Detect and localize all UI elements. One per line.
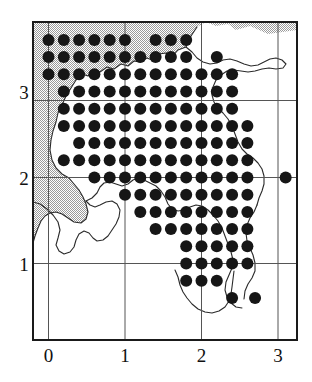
distribution-dot: [73, 51, 85, 63]
distribution-dot: [150, 189, 162, 201]
distribution-dot: [43, 68, 55, 80]
distribution-dot: [241, 137, 253, 149]
distribution-dot: [196, 154, 208, 166]
distribution-dot: [58, 103, 70, 115]
distribution-dot: [88, 86, 100, 98]
distribution-dot: [196, 137, 208, 149]
distribution-dot: [150, 137, 162, 149]
distribution-dot: [241, 189, 253, 201]
distribution-dot: [150, 51, 162, 63]
distribution-dot: [196, 275, 208, 287]
distribution-dot: [150, 206, 162, 218]
distribution-dot: [211, 258, 223, 270]
distribution-dot: [43, 34, 55, 46]
distribution-dot: [226, 258, 238, 270]
distribution-dot: [226, 223, 238, 235]
distribution-dot: [211, 51, 223, 63]
distribution-dot: [165, 51, 177, 63]
distribution-dot: [241, 154, 253, 166]
distribution-dot: [226, 172, 238, 184]
distribution-dot: [119, 34, 131, 46]
distribution-dot: [43, 51, 55, 63]
distribution-dot: [134, 137, 146, 149]
x-tick-label: 2: [197, 345, 207, 366]
distribution-dot: [134, 206, 146, 218]
distribution-dot: [165, 103, 177, 115]
distribution-dot: [226, 137, 238, 149]
distribution-dot: [196, 103, 208, 115]
x-axis-tick-labels: 0123: [44, 345, 283, 366]
distribution-dot: [73, 120, 85, 132]
distribution-dot: [104, 103, 116, 115]
distribution-dot: [211, 172, 223, 184]
distribution-dot: [226, 103, 238, 115]
distribution-dot: [119, 86, 131, 98]
distribution-dot: [119, 154, 131, 166]
distribution-dot: [180, 154, 192, 166]
distribution-dot: [104, 137, 116, 149]
distribution-dot: [58, 34, 70, 46]
distribution-dot: [241, 258, 253, 270]
y-axis-tick-labels: 123: [19, 82, 29, 275]
distribution-dot: [226, 189, 238, 201]
distribution-dot: [73, 86, 85, 98]
distribution-dot: [196, 120, 208, 132]
distribution-dot: [211, 240, 223, 252]
distribution-dot: [180, 34, 192, 46]
distribution-dot: [119, 120, 131, 132]
distribution-dot: [180, 258, 192, 270]
distribution-dot: [211, 189, 223, 201]
distribution-dot: [211, 154, 223, 166]
distribution-dot: [150, 120, 162, 132]
distribution-dot: [104, 154, 116, 166]
distribution-dot: [73, 34, 85, 46]
y-tick-label: 2: [19, 168, 29, 189]
distribution-dot: [165, 223, 177, 235]
distribution-dot: [150, 223, 162, 235]
distribution-dot: [165, 154, 177, 166]
distribution-dot: [196, 189, 208, 201]
distribution-dot: [104, 120, 116, 132]
distribution-dot: [58, 86, 70, 98]
distribution-dot: [241, 172, 253, 184]
distribution-dot: [211, 137, 223, 149]
distribution-dot: [165, 120, 177, 132]
distribution-dot: [226, 68, 238, 80]
x-tick-label: 0: [44, 345, 54, 366]
distribution-dot: [211, 68, 223, 80]
distribution-dot: [226, 120, 238, 132]
distribution-dot: [165, 34, 177, 46]
distribution-dot: [241, 206, 253, 218]
distribution-dot: [249, 292, 261, 304]
distribution-dot: [241, 240, 253, 252]
x-tick-label: 3: [273, 345, 283, 366]
distribution-dot: [165, 86, 177, 98]
distribution-dot: [88, 154, 100, 166]
distribution-dot: [180, 240, 192, 252]
x-tick-label: 1: [120, 345, 130, 366]
distribution-dot: [226, 240, 238, 252]
y-tick-label: 1: [19, 254, 29, 275]
distribution-dot: [58, 154, 70, 166]
distribution-dot: [119, 68, 131, 80]
distribution-dot: [241, 120, 253, 132]
distribution-dot: [226, 154, 238, 166]
distribution-dot: [134, 172, 146, 184]
distribution-dot: [88, 34, 100, 46]
distribution-dot: [196, 68, 208, 80]
distribution-dot: [104, 51, 116, 63]
distribution-dot: [196, 86, 208, 98]
distribution-dot: [180, 275, 192, 287]
distribution-dot: [88, 120, 100, 132]
distribution-map-figure: 0123 123: [0, 0, 312, 382]
distribution-dot: [280, 172, 292, 184]
distribution-dot: [150, 34, 162, 46]
distribution-dot: [150, 172, 162, 184]
distribution-dot: [88, 51, 100, 63]
distribution-dot: [134, 120, 146, 132]
distribution-dot: [180, 68, 192, 80]
distribution-dot: [104, 34, 116, 46]
distribution-dot: [165, 206, 177, 218]
distribution-dot: [180, 137, 192, 149]
distribution-dot: [211, 223, 223, 235]
